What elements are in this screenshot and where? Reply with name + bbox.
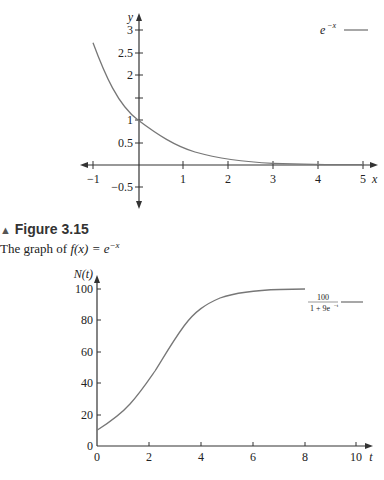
svg-text:80: 80	[81, 313, 93, 327]
svg-text:0: 0	[87, 439, 93, 453]
curve-logistic	[97, 289, 305, 430]
svg-text:100: 100	[75, 282, 93, 296]
t-axis-arrow-icon	[365, 443, 373, 449]
svg-text:10: 10	[350, 450, 362, 464]
svg-text:60: 60	[81, 345, 93, 359]
legend-logistic: 100 1 + 9e −t	[308, 293, 363, 313]
svg-text:−t: −t	[334, 303, 339, 308]
chart-logistic: 0 2 4 6 8 10 t 0 20 40 60 80 100 N(t) 10…	[0, 0, 384, 480]
svg-text:4: 4	[198, 450, 204, 464]
svg-text:N(t): N(t)	[73, 267, 93, 281]
svg-text:6: 6	[250, 450, 256, 464]
svg-text:t: t	[369, 450, 373, 464]
svg-text:2: 2	[146, 450, 152, 464]
svg-text:40: 40	[81, 376, 93, 390]
svg-text:0: 0	[94, 450, 100, 464]
n-axis-arrow-icon	[94, 275, 100, 283]
svg-text:100: 100	[317, 293, 329, 302]
svg-text:1 + 9e: 1 + 9e	[310, 304, 331, 313]
svg-text:20: 20	[81, 408, 93, 422]
t-tick-labels: 0 2 4 6 8 10 t	[94, 450, 373, 464]
n-tick-labels: 0 20 40 60 80 100 N(t)	[73, 267, 93, 453]
svg-text:8: 8	[302, 450, 308, 464]
